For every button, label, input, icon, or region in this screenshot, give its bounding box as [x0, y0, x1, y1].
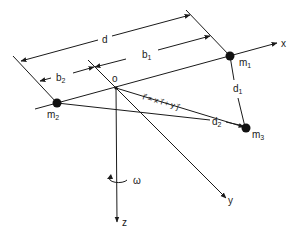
- dimension-d2-label: d2: [212, 116, 222, 128]
- dimension-b1: [95, 36, 210, 67]
- diagram-svg: x z y d b2 b1 r⃗ = x i⃗ + y j⃗ d2: [0, 0, 291, 234]
- origin-point: [114, 86, 117, 89]
- mass-m3-label: m3: [252, 129, 264, 141]
- mass-m3: [242, 124, 251, 133]
- y-axis-label: y: [228, 195, 233, 206]
- dimension-b1-label: b1: [142, 49, 152, 61]
- dimension-b2-label: b2: [56, 72, 66, 84]
- origin-label: o: [112, 73, 118, 84]
- omega-label: ω: [133, 175, 141, 186]
- dimension-b2: [40, 67, 94, 81]
- extension-line-m1: [186, 10, 230, 56]
- z-axis-label: z: [122, 217, 127, 228]
- mass-m2-label: m2: [47, 109, 59, 121]
- dimension-d-label: d: [102, 34, 108, 45]
- diagram-canvas: x z y d b2 b1 r⃗ = x i⃗ + y j⃗ d2: [0, 0, 291, 234]
- mass-m1: [226, 52, 235, 61]
- dimension-d1-label: d1: [233, 83, 243, 95]
- extension-line-m2: [13, 56, 57, 103]
- mass-m2: [53, 99, 62, 108]
- z-axis: [116, 88, 117, 222]
- x-axis-label: x: [281, 38, 286, 49]
- position-vector-label: r⃗ = x i⃗ + y j⃗: [141, 92, 181, 111]
- mass-m1-label: m1: [239, 57, 251, 69]
